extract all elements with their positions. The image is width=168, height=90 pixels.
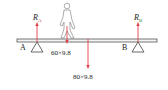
reaction-b-label: RB xyxy=(133,13,143,23)
beam-diagram: A B RA RB 60×9.8 80×9.8 xyxy=(0,0,168,90)
reaction-a-label: RA xyxy=(32,13,42,23)
beam-weight-label: 80×9.8 xyxy=(73,73,93,81)
person-icon xyxy=(60,3,75,38)
support-a-icon xyxy=(31,42,43,52)
beam-weight-arrow xyxy=(86,39,89,69)
beam xyxy=(17,39,157,42)
person-weight-label: 60×9.8 xyxy=(51,49,71,57)
support-b-label: B xyxy=(122,43,127,52)
support-b-icon xyxy=(132,42,144,52)
support-a-label: A xyxy=(20,43,26,52)
